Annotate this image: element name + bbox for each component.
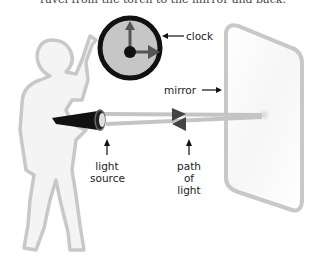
light-source-line-2: source — [90, 172, 124, 184]
light-source-line-1: light — [90, 160, 124, 172]
clock-label: clock — [186, 30, 213, 42]
diagram — [0, 0, 322, 263]
path-line-2: of — [174, 172, 204, 184]
person-figure — [20, 36, 96, 250]
light-source-label: light source — [90, 160, 124, 184]
clock-icon — [100, 18, 160, 78]
mirror-label: mirror — [164, 84, 196, 96]
path-of-light-label: path of light — [174, 160, 204, 196]
path-line-1: path — [174, 160, 204, 172]
path-line-3: light — [174, 184, 204, 196]
